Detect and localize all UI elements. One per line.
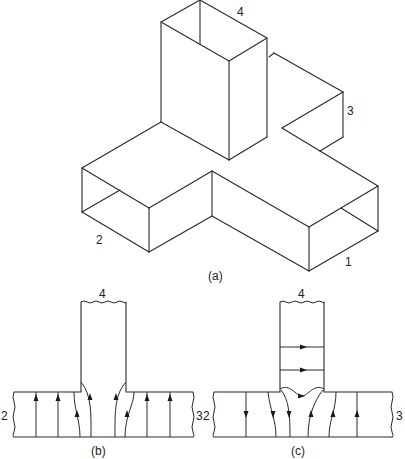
arrow-up-icon bbox=[145, 394, 150, 401]
arrow-down-icon bbox=[271, 411, 276, 418]
port-2-label-b: 2 bbox=[1, 409, 8, 423]
magic-tee-figure: 4 3 2 1 (a) 4 2 3 (b) bbox=[0, 0, 405, 459]
port-4-label: 4 bbox=[237, 5, 244, 19]
arrow-up-icon bbox=[355, 410, 360, 417]
arrow-down-icon bbox=[244, 411, 249, 418]
caption-a: (a) bbox=[208, 269, 223, 283]
port-1-arm bbox=[212, 151, 378, 271]
part-c-field-diagram: 4 2 3 (c) bbox=[203, 287, 403, 458]
arrow-up-icon bbox=[34, 394, 39, 401]
port-2-label: 2 bbox=[96, 233, 103, 247]
arrow-right-icon bbox=[298, 394, 305, 399]
arrow-up-icon bbox=[56, 394, 61, 401]
port-2-label-c: 2 bbox=[203, 409, 210, 423]
arrow-up-icon bbox=[168, 394, 173, 401]
port-1-label: 1 bbox=[345, 255, 352, 269]
part-b-field-diagram: 4 2 3 (b) bbox=[1, 287, 203, 458]
caption-b: (b) bbox=[91, 444, 106, 458]
port-3-label-b: 3 bbox=[196, 409, 203, 423]
port-4-label-c: 4 bbox=[298, 287, 305, 301]
part-a-isometric: 4 3 2 1 (a) bbox=[82, 0, 378, 283]
port-3-label: 3 bbox=[347, 104, 354, 118]
arrow-up-icon bbox=[309, 410, 314, 417]
arrow-down-icon bbox=[287, 411, 292, 418]
arrow-right-icon bbox=[300, 368, 307, 373]
arrow-up-icon bbox=[75, 410, 80, 417]
arrow-up-icon bbox=[331, 410, 336, 417]
caption-c: (c) bbox=[291, 444, 305, 458]
port-4-label-b: 4 bbox=[99, 287, 106, 301]
port-3-arm bbox=[269, 53, 343, 151]
arrow-right-icon bbox=[300, 345, 307, 350]
port-4-tower bbox=[161, 0, 267, 160]
port-3-label-c: 3 bbox=[396, 409, 403, 423]
